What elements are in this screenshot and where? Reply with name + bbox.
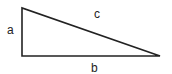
triangle-diagram: a b c — [0, 0, 172, 74]
side-c-label: c — [94, 7, 100, 21]
side-a-label: a — [7, 23, 14, 37]
side-b-label: b — [91, 61, 98, 74]
right-triangle — [22, 8, 160, 56]
